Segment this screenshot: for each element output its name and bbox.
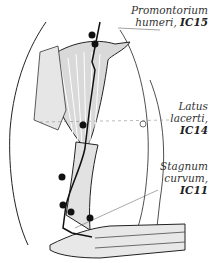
label-line: Stagnum bbox=[160, 160, 208, 172]
label-ic14: Latus lacerti, IC14 bbox=[170, 100, 208, 136]
point-dot bbox=[87, 215, 94, 222]
point-code: IC14 bbox=[180, 124, 208, 136]
label-line: Promontorium bbox=[131, 4, 208, 16]
navel-mark bbox=[140, 121, 146, 127]
point-code: IC11 bbox=[180, 184, 208, 196]
point-dot bbox=[60, 202, 67, 209]
point-dot bbox=[80, 122, 87, 129]
point-dot bbox=[59, 174, 66, 181]
label-name: humeri, bbox=[135, 16, 176, 28]
leader-ic15 bbox=[118, 28, 160, 30]
label-ic11: Stagnum curvum, IC11 bbox=[160, 160, 208, 196]
point-code: IC15 bbox=[180, 16, 208, 28]
point-dot-ic11 bbox=[68, 209, 75, 216]
label-line: Latus bbox=[170, 100, 208, 112]
point-dot bbox=[89, 32, 96, 39]
back-outline bbox=[120, 30, 148, 250]
label-ic15: Promontorium humeri, IC15 bbox=[131, 4, 208, 28]
label-line: curvum, bbox=[160, 172, 208, 184]
label-line: humeri, IC15 bbox=[131, 16, 208, 28]
point-dot-ic15 bbox=[92, 41, 99, 48]
side-outline bbox=[150, 80, 164, 236]
forearm bbox=[50, 224, 185, 258]
label-line: lacerti, bbox=[170, 112, 208, 124]
